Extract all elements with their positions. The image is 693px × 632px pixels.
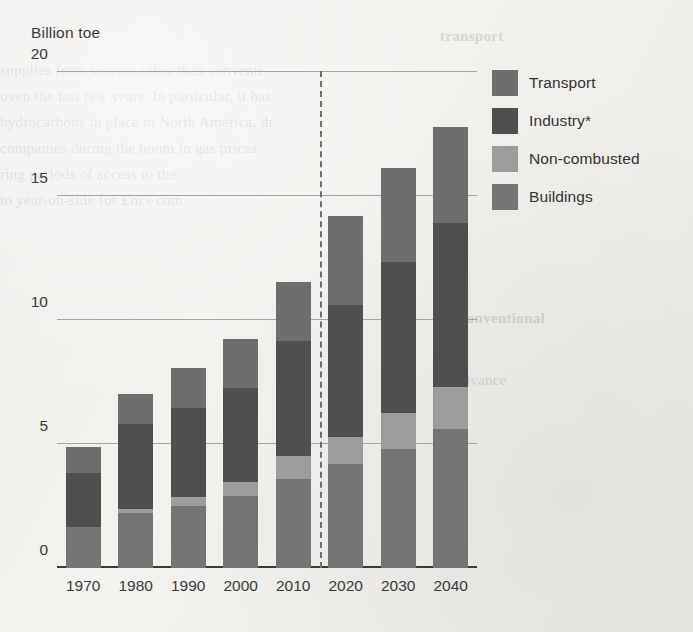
bar-group-1980[interactable]: 1980 <box>118 394 153 568</box>
bar-segment-transport-2040[interactable] <box>433 127 468 224</box>
x-axis-tick-label-2040: 2040 <box>433 577 468 595</box>
gridline-20: 20 <box>57 71 477 72</box>
legend-swatch-icon <box>492 146 518 172</box>
legend-swatch-icon <box>492 70 518 96</box>
bar-segment-industry-1990[interactable] <box>171 408 206 497</box>
bar-segment-industry-2000[interactable] <box>223 388 258 482</box>
bar-segment-buildings-2020[interactable] <box>328 464 363 568</box>
bar-segment-transport-1990[interactable] <box>171 368 206 408</box>
bar-segment-transport-2030[interactable] <box>381 168 416 262</box>
bar-segment-industry-2010[interactable] <box>276 341 311 456</box>
x-axis-tick-label-2000: 2000 <box>223 577 258 595</box>
bar-segment-non-combusted-2020[interactable] <box>328 437 363 464</box>
bar-segment-transport-2020[interactable] <box>328 216 363 305</box>
bar-segment-transport-2010[interactable] <box>276 282 311 342</box>
plot-area: 05101520 1970198019902000201020202030204… <box>57 72 477 568</box>
bar-group-1990[interactable]: 1990 <box>171 368 206 568</box>
bar-segment-non-combusted-2040[interactable] <box>433 387 468 429</box>
bar-group-1970[interactable]: 1970 <box>66 447 101 568</box>
bar-segment-non-combusted-2010[interactable] <box>276 456 311 478</box>
bar-segment-buildings-2000[interactable] <box>223 496 258 568</box>
legend-item-label: Buildings <box>529 188 593 206</box>
legend-item-industry[interactable]: Industry* <box>492 108 640 134</box>
legend-swatch-icon <box>492 108 518 134</box>
bar-segment-buildings-1980[interactable] <box>118 513 153 568</box>
y-axis-tick-label: 5 <box>39 417 48 435</box>
chart-legend: TransportIndustry*Non-combustedBuildings <box>492 70 640 210</box>
stacked-bar-chart: Billion toe 05101520 1970198019902000201… <box>0 0 693 632</box>
legend-swatch-icon <box>492 184 518 210</box>
legend-item-non-combusted[interactable]: Non-combusted <box>492 146 640 172</box>
bar-segment-transport-1970[interactable] <box>66 447 101 473</box>
x-axis-tick-label-2020: 2020 <box>328 577 363 595</box>
bar-group-2040[interactable]: 2040 <box>433 127 468 568</box>
history-forecast-divider-icon <box>320 71 322 568</box>
legend-item-transport[interactable]: Transport <box>492 70 640 96</box>
x-axis-tick-label-1990: 1990 <box>171 577 206 595</box>
legend-item-buildings[interactable]: Buildings <box>492 184 640 210</box>
bar-segment-buildings-2030[interactable] <box>381 449 416 568</box>
bar-segment-industry-2020[interactable] <box>328 305 363 436</box>
y-axis-title: Billion toe <box>31 24 100 42</box>
bar-segment-industry-2040[interactable] <box>433 223 468 387</box>
y-axis-tick-label: 0 <box>39 541 48 559</box>
bar-segment-buildings-2010[interactable] <box>276 479 311 568</box>
y-axis-tick-label: 15 <box>31 169 48 187</box>
x-axis-tick-label-1980: 1980 <box>118 577 153 595</box>
bar-segment-buildings-2040[interactable] <box>433 429 468 568</box>
bar-group-2020[interactable]: 2020 <box>328 216 363 568</box>
bar-segment-non-combusted-2030[interactable] <box>381 413 416 449</box>
x-axis-tick-label-2010: 2010 <box>276 577 311 595</box>
bar-segment-non-combusted-1990[interactable] <box>171 497 206 506</box>
x-axis-tick-label-2030: 2030 <box>381 577 416 595</box>
bar-segment-transport-2000[interactable] <box>223 339 258 389</box>
bar-segment-buildings-1990[interactable] <box>171 506 206 568</box>
bar-segment-buildings-1970[interactable] <box>66 527 101 568</box>
bar-group-2010[interactable]: 2010 <box>276 282 311 568</box>
x-axis-tick-label-1970: 1970 <box>66 577 101 595</box>
bar-segment-industry-1970[interactable] <box>66 473 101 528</box>
y-axis-tick-label: 10 <box>31 293 48 311</box>
y-axis-tick-label: 20 <box>31 45 48 63</box>
bar-segment-industry-2030[interactable] <box>381 262 416 413</box>
bar-segment-industry-1980[interactable] <box>118 424 153 508</box>
bar-group-2030[interactable]: 2030 <box>381 168 416 568</box>
bar-segment-transport-1980[interactable] <box>118 394 153 424</box>
legend-item-label: Industry* <box>529 112 591 130</box>
legend-item-label: Transport <box>529 74 596 92</box>
bar-group-2000[interactable]: 2000 <box>223 339 258 568</box>
bar-segment-non-combusted-2000[interactable] <box>223 482 258 496</box>
legend-item-label: Non-combusted <box>529 150 640 168</box>
